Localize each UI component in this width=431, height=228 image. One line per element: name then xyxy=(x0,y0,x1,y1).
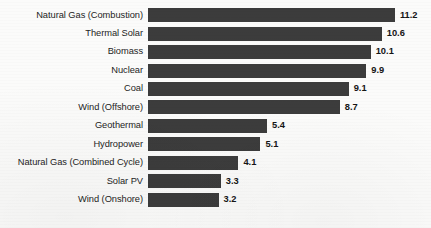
bar-track: 9.9 xyxy=(148,64,431,78)
bar-row: Nuclear 9.9 xyxy=(0,61,431,79)
category-label: Natural Gas (Combustion) xyxy=(0,11,143,20)
bar-row: Wind (Offshore) 8.7 xyxy=(0,98,431,116)
bar-track: 5.1 xyxy=(148,137,431,151)
bar xyxy=(148,137,260,151)
chart-plot-area: Natural Gas (Combustion) 11.2 Thermal So… xyxy=(0,6,431,209)
bar xyxy=(148,45,371,59)
bar-track: 10.1 xyxy=(148,45,431,59)
bar xyxy=(148,82,349,96)
bar-track: 4.1 xyxy=(148,156,431,170)
bar xyxy=(148,100,340,114)
value-label: 10.6 xyxy=(387,29,405,38)
bar-chart: Natural Gas (Combustion) 11.2 Thermal So… xyxy=(0,0,431,228)
bar-row: Hydropower 5.1 xyxy=(0,135,431,153)
category-label: Coal xyxy=(0,84,143,93)
category-label: Solar PV xyxy=(0,177,143,186)
category-label: Nuclear xyxy=(0,66,143,75)
bar-track: 9.1 xyxy=(148,82,431,96)
bar xyxy=(148,8,395,22)
value-label: 9.9 xyxy=(371,66,384,75)
bar-track: 11.2 xyxy=(148,8,431,22)
value-label: 10.1 xyxy=(376,47,394,56)
bar xyxy=(148,156,238,170)
category-label: Natural Gas (Combined Cycle) xyxy=(0,158,143,167)
value-label: 8.7 xyxy=(345,103,358,112)
bar-row: Natural Gas (Combined Cycle) 4.1 xyxy=(0,154,431,172)
value-label: 3.2 xyxy=(224,195,237,204)
value-label: 4.1 xyxy=(243,158,256,167)
bar-row: Coal 9.1 xyxy=(0,80,431,98)
bar-track: 10.6 xyxy=(148,27,431,41)
bar-row: Solar PV 3.3 xyxy=(0,172,431,190)
value-label: 11.2 xyxy=(400,11,418,20)
bar-row: Geothermal 5.4 xyxy=(0,117,431,135)
bar xyxy=(148,27,382,41)
category-label: Biomass xyxy=(0,47,143,56)
category-label: Wind (Onshore) xyxy=(0,195,143,204)
category-label: Thermal Solar xyxy=(0,29,143,38)
category-label: Wind (Offshore) xyxy=(0,103,143,112)
value-label: 3.3 xyxy=(226,177,239,186)
value-label: 9.1 xyxy=(354,84,367,93)
bar xyxy=(148,119,267,133)
bar-row: Biomass 10.1 xyxy=(0,43,431,61)
category-label: Hydropower xyxy=(0,140,143,149)
bar-track: 3.3 xyxy=(148,174,431,188)
bar xyxy=(148,193,219,207)
bar xyxy=(148,64,366,78)
value-label: 5.1 xyxy=(265,140,278,149)
bar-track: 5.4 xyxy=(148,119,431,133)
bar-row: Wind (Onshore) 3.2 xyxy=(0,190,431,208)
bar xyxy=(148,174,221,188)
value-label: 5.4 xyxy=(272,121,285,130)
bar-row: Natural Gas (Combustion) 11.2 xyxy=(0,6,431,24)
bar-track: 3.2 xyxy=(148,193,431,207)
category-label: Geothermal xyxy=(0,121,143,130)
bar-row: Thermal Solar 10.6 xyxy=(0,24,431,42)
bar-track: 8.7 xyxy=(148,100,431,114)
